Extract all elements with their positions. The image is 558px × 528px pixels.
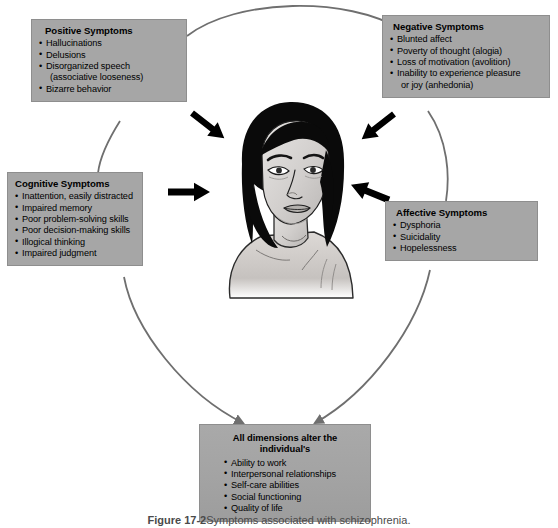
list-item: Poor decision-making skills (15, 225, 135, 236)
negative-to-affective-arc (428, 111, 448, 201)
list-item: Hopelessness (393, 243, 530, 254)
outcome-title: All dimensions alter the individual's (207, 432, 363, 455)
list-item: Inattention, easily distracted (15, 191, 135, 202)
list-item: Illogical thinking (15, 237, 135, 248)
negative-symptoms-list: Blunted affect Poverty of thought (alogi… (390, 34, 542, 90)
positive-symptoms-box: Positive Symptoms Hallucinations Delusio… (31, 19, 187, 102)
list-item: Poor problem-solving skills (15, 214, 135, 225)
figure-caption-text: Symptoms associated with schizophrenia. (206, 514, 410, 526)
list-item: Blunted affect (390, 34, 542, 45)
outcome-box: All dimensions alter the individual's Ab… (199, 424, 371, 522)
positive-symptoms-title: Positive Symptoms (45, 25, 179, 36)
affective-symptoms-box: Affective Symptoms Dysphoria Suicidality… (385, 201, 538, 261)
outcome-list: Ability to work Interpersonal relationsh… (207, 458, 363, 514)
list-item: Interpersonal relationships (207, 469, 363, 480)
list-item: or joy (anhedonia) (390, 80, 542, 91)
list-item: Ability to work (207, 458, 363, 469)
affective-symptoms-list: Dysphoria Suicidality Hopelessness (393, 220, 530, 254)
list-item: Impaired memory (15, 203, 135, 214)
list-item: Dysphoria (393, 220, 530, 231)
negative-symptoms-title: Negative Symptoms (393, 21, 542, 32)
list-item: Quality of life (207, 503, 363, 514)
list-item: Hallucinations (39, 38, 179, 49)
cognitive-symptoms-list: Inattention, easily distracted Impaired … (15, 191, 135, 259)
cognitive-symptoms-title: Cognitive Symptoms (15, 178, 135, 189)
list-item: Bizarre behavior (39, 84, 179, 95)
list-item: Loss of motivation (avolition) (390, 57, 542, 68)
patient-illustration-svg (196, 98, 378, 300)
positive-symptoms-list: Hallucinations Delusions Disorganized sp… (39, 38, 179, 94)
positive-to-cognitive-arc (98, 121, 120, 173)
list-item: Self-care abilities (207, 480, 363, 491)
figure-caption-label: Figure 17-2 (148, 514, 207, 526)
patient-illustration (196, 98, 378, 300)
list-item: (associative looseness) (39, 72, 179, 83)
list-item: Delusions (39, 50, 179, 61)
list-item: Poverty of thought (alogia) (390, 46, 542, 57)
list-item: Suicidality (393, 232, 530, 243)
cognitive-symptoms-box: Cognitive Symptoms Inattention, easily d… (7, 172, 143, 266)
negative-symptoms-box: Negative Symptoms Blunted affect Poverty… (382, 15, 550, 98)
figure-caption: Figure 17-2Symptoms associated with schi… (0, 514, 558, 526)
positive-to-negative-arc (187, 6, 402, 36)
affective-symptoms-title: Affective Symptoms (396, 207, 530, 218)
list-item: Social functioning (207, 492, 363, 503)
schizophrenia-symptoms-diagram: Positive Symptoms Hallucinations Delusio… (0, 0, 558, 528)
list-item: Inability to experience pleasure (390, 68, 542, 79)
list-item: Impaired judgment (15, 248, 135, 259)
list-item: Disorganized speech (39, 61, 179, 72)
